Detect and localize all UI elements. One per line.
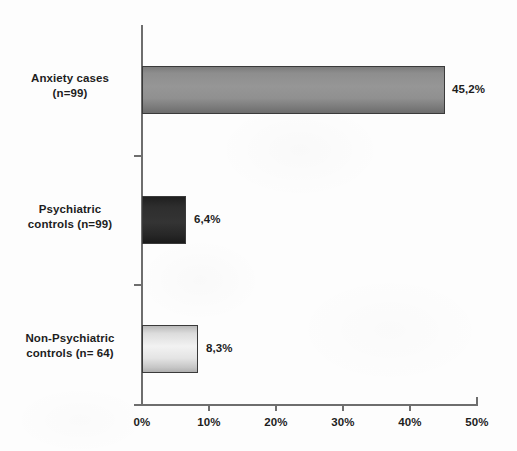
y-axis-tick xyxy=(134,284,142,286)
category-label-line: controls (n=99) xyxy=(8,217,132,232)
y-axis-tick xyxy=(134,155,142,157)
x-axis-tick xyxy=(409,404,411,411)
bar-non-psychiatric-controls[interactable] xyxy=(142,325,198,373)
x-axis-tick-label: 40% xyxy=(387,416,433,428)
x-axis-tick xyxy=(275,404,277,411)
x-axis-tick-label: 20% xyxy=(253,416,299,428)
x-axis-tick-label: 30% xyxy=(320,416,366,428)
category-label-line: Non-Psychiatric xyxy=(8,331,132,346)
x-axis-tick-label: 0% xyxy=(119,416,165,428)
x-axis-tick xyxy=(342,404,344,411)
category-label-line: (n=99) xyxy=(8,86,132,101)
bar-value-anxiety-cases: 45,2% xyxy=(452,83,485,95)
category-label-anxiety-cases: Anxiety cases (n=99) xyxy=(8,71,132,101)
x-axis-line xyxy=(141,404,478,406)
bar-value-non-psychiatric-controls: 8,3% xyxy=(206,342,233,354)
category-label-line: Psychiatric xyxy=(8,202,132,217)
bar-value-psychiatric-controls: 6,4% xyxy=(194,213,221,225)
bar-chart: Anxiety cases (n=99) 45,2% Psychiatric c… xyxy=(0,0,517,451)
category-label-line: controls (n= 64) xyxy=(8,346,132,361)
x-axis-tick-label: 10% xyxy=(186,416,232,428)
category-label-line: Anxiety cases xyxy=(8,71,132,86)
bar-psychiatric-controls[interactable] xyxy=(142,196,186,244)
x-axis-tick xyxy=(476,397,478,406)
category-label-psychiatric-controls: Psychiatric controls (n=99) xyxy=(8,202,132,232)
bar-anxiety-cases[interactable] xyxy=(142,66,445,114)
x-axis-tick xyxy=(141,397,143,406)
category-label-non-psychiatric-controls: Non-Psychiatric controls (n= 64) xyxy=(8,331,132,361)
x-axis-tick-label: 50% xyxy=(454,416,500,428)
x-axis-tick xyxy=(208,404,210,411)
